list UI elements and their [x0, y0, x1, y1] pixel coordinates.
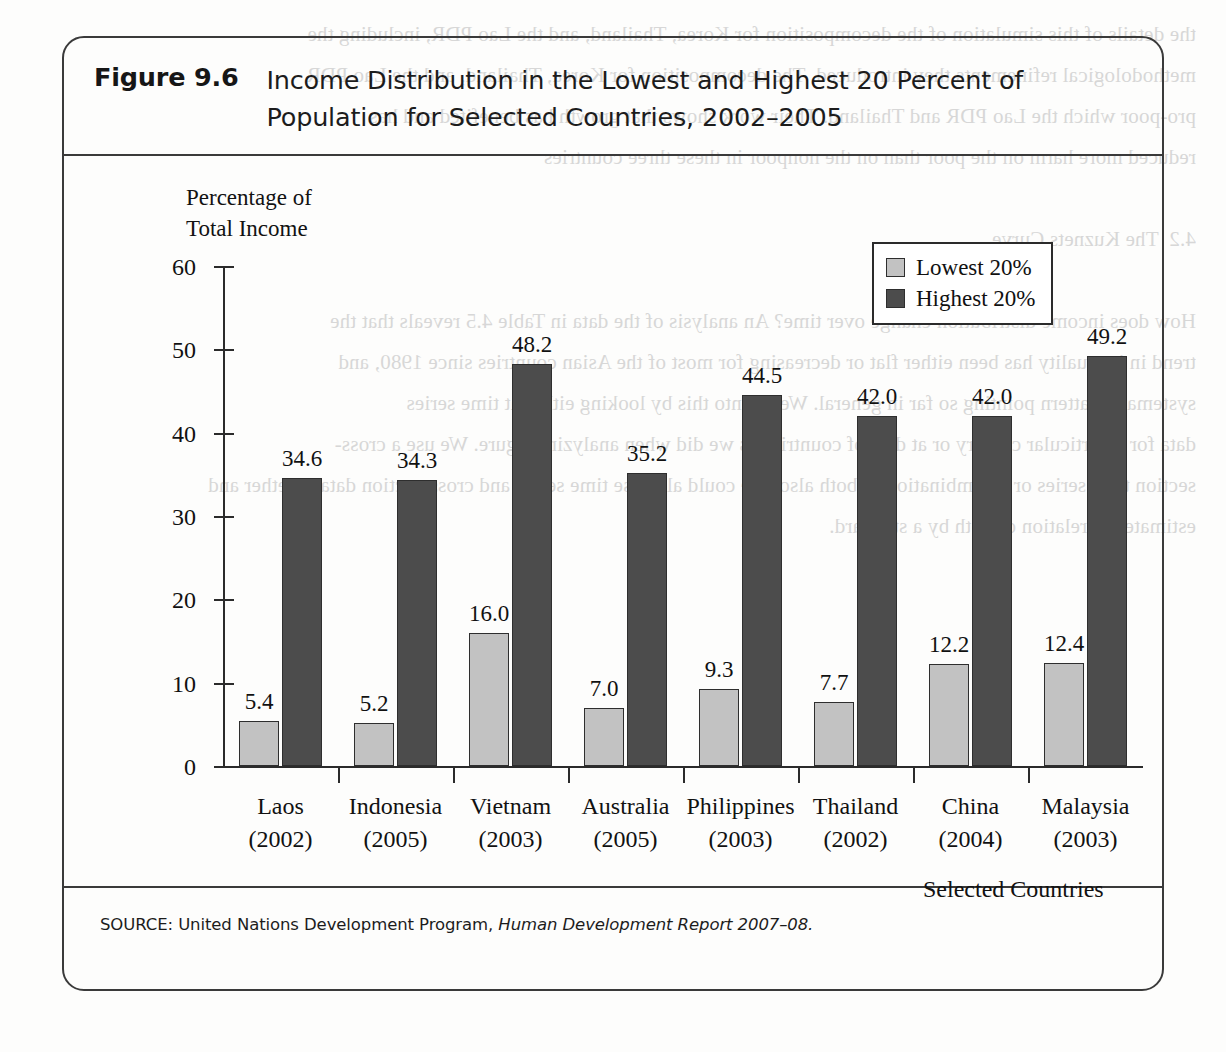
bar-vietnam-highest — [512, 364, 552, 766]
bar-value-thailand-lowest: 7.7 — [820, 670, 849, 696]
x-tick-3 — [568, 766, 570, 783]
y-tick-label-60: 60 — [172, 254, 196, 281]
bar-thailand-lowest — [814, 702, 854, 766]
x-tick-1 — [338, 766, 340, 783]
chart-plot-area: Percentage of Total Income 0102030405060… — [62, 156, 1164, 886]
bar-philippines-lowest — [699, 689, 739, 767]
chart-legend: Lowest 20% Highest 20% — [872, 242, 1053, 325]
bar-indonesia-highest — [397, 480, 437, 766]
bar-value-indonesia-highest: 34.3 — [397, 448, 437, 474]
legend-item-lowest: Lowest 20% — [886, 252, 1035, 283]
bar-value-vietnam-highest: 48.2 — [512, 332, 552, 358]
y-tick-label-50: 50 — [172, 337, 196, 364]
bar-china-highest — [972, 416, 1012, 766]
legend-swatch-highest-icon — [886, 289, 905, 308]
figure-page: the details of this simulation of the de… — [0, 0, 1226, 1052]
bar-value-malaysia-lowest: 12.4 — [1044, 631, 1084, 657]
figure-number: Figure 9.6 — [94, 62, 239, 92]
legend-item-highest: Highest 20% — [886, 283, 1035, 314]
bar-value-philippines-highest: 44.5 — [742, 363, 782, 389]
bar-australia-highest — [627, 473, 667, 766]
bar-china-lowest — [929, 664, 969, 766]
y-tick-label-30: 30 — [172, 504, 196, 531]
x-tick-7 — [1028, 766, 1030, 783]
y-tick-label-10: 10 — [172, 671, 196, 698]
bar-value-philippines-lowest: 9.3 — [705, 657, 734, 683]
y-tick-0: 0 — [214, 766, 234, 768]
bar-thailand-highest — [857, 416, 897, 766]
legend-swatch-lowest-icon — [886, 258, 905, 277]
bar-indonesia-lowest — [354, 723, 394, 766]
bar-value-china-highest: 42.0 — [972, 384, 1012, 410]
x-category-label-philippines: Philippines (2003) — [686, 790, 794, 856]
bar-value-australia-lowest: 7.0 — [590, 676, 619, 702]
x-axis-title: Selected Countries — [923, 876, 1104, 903]
bar-value-laos-highest: 34.6 — [282, 446, 322, 472]
x-category-label-indonesia: Indonesia (2005) — [349, 790, 442, 856]
bar-laos-lowest — [239, 721, 279, 766]
x-tick-4 — [683, 766, 685, 783]
chart-axes: 0102030405060 5.434.65.234.316.048.27.03… — [223, 266, 1143, 766]
bar-vietnam-lowest — [469, 633, 509, 766]
x-tick-6 — [913, 766, 915, 783]
bar-malaysia-lowest — [1044, 663, 1084, 766]
y-tick-label-40: 40 — [172, 421, 196, 448]
x-category-label-malaysia: Malaysia (2003) — [1042, 790, 1130, 856]
x-category-label-laos: Laos (2002) — [249, 790, 313, 856]
y-axis-title: Percentage of Total Income — [186, 182, 312, 244]
bar-value-malaysia-highest: 49.2 — [1087, 324, 1127, 350]
bar-australia-lowest — [584, 708, 624, 766]
bar-laos-highest — [282, 478, 322, 766]
y-tick-label-0: 0 — [184, 754, 196, 781]
bar-philippines-highest — [742, 395, 782, 766]
x-category-label-vietnam: Vietnam (2003) — [470, 790, 551, 856]
figure-title-block: Figure 9.6 Income Distribution in the Lo… — [94, 62, 1134, 136]
bar-value-thailand-highest: 42.0 — [857, 384, 897, 410]
x-category-label-thailand: Thailand (2002) — [813, 790, 898, 856]
x-category-label-australia: Australia (2005) — [582, 790, 670, 856]
source-title-italic: Human Development Report 2007–08. — [498, 915, 813, 934]
y-tick-label-20: 20 — [172, 587, 196, 614]
bar-value-indonesia-lowest: 5.2 — [360, 691, 389, 717]
x-category-label-china: China (2004) — [939, 790, 1003, 856]
x-tick-5 — [798, 766, 800, 783]
bar-value-vietnam-lowest: 16.0 — [469, 601, 509, 627]
bar-malaysia-highest — [1087, 356, 1127, 766]
figure-title: Income Distribution in the Lowest and Hi… — [267, 62, 1097, 136]
legend-label-lowest: Lowest 20% — [916, 252, 1032, 283]
legend-label-highest: Highest 20% — [916, 283, 1035, 314]
bar-value-laos-lowest: 5.4 — [245, 689, 274, 715]
bar-value-china-lowest: 12.2 — [929, 632, 969, 658]
bar-value-australia-highest: 35.2 — [627, 441, 667, 467]
source-prefix: SOURCE: United Nations Development Progr… — [100, 915, 498, 934]
x-tick-2 — [453, 766, 455, 783]
figure-source-note: SOURCE: United Nations Development Progr… — [100, 915, 813, 934]
